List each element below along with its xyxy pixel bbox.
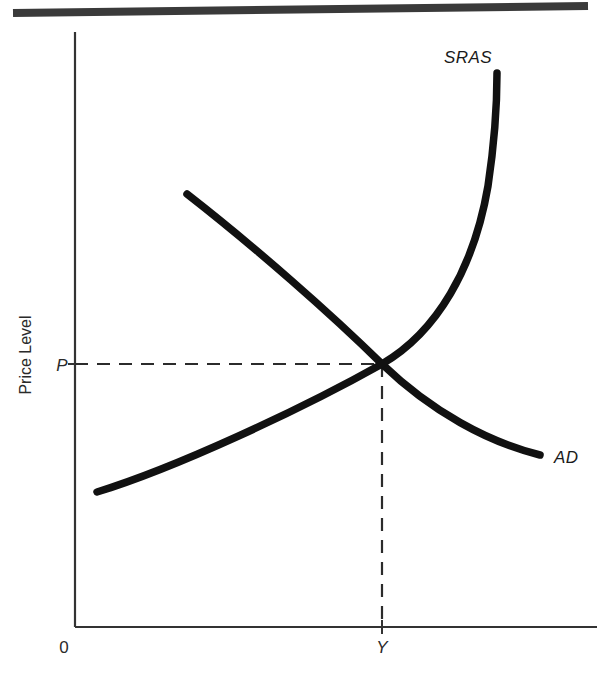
sras-curve-label: SRAS: [444, 48, 492, 67]
y-axis-value-label-p: P: [56, 356, 68, 375]
figure-root: SRAS AD P Y 0 Price Level: [0, 0, 605, 675]
x-axis-value-label-y: Y: [376, 638, 389, 657]
ad-curve-label: AD: [553, 448, 578, 467]
ad-sras-diagram: SRAS AD P Y 0 Price Level: [0, 0, 605, 675]
ad-curve: [187, 194, 540, 455]
decorative-horizontal-rule: [13, 6, 588, 13]
origin-label: 0: [59, 638, 68, 657]
y-axis-title: Price Level: [17, 315, 34, 394]
